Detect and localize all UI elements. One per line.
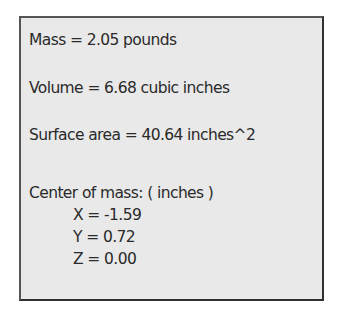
volume-value: Volume = 6.68 cubic inches bbox=[29, 78, 229, 98]
center-of-mass-z: Z = 0.00 bbox=[73, 249, 136, 269]
surface-area-value: Surface area = 40.64 inches^2 bbox=[29, 125, 255, 145]
mass-value: Mass = 2.05 pounds bbox=[29, 30, 176, 50]
center-of-mass-x: X = -1.59 bbox=[73, 205, 141, 225]
center-of-mass-y: Y = 0.72 bbox=[73, 227, 135, 247]
center-of-mass-label: Center of mass: ( inches ) bbox=[29, 183, 213, 203]
mass-properties-panel: Mass = 2.05 pounds Volume = 6.68 cubic i… bbox=[19, 16, 324, 301]
